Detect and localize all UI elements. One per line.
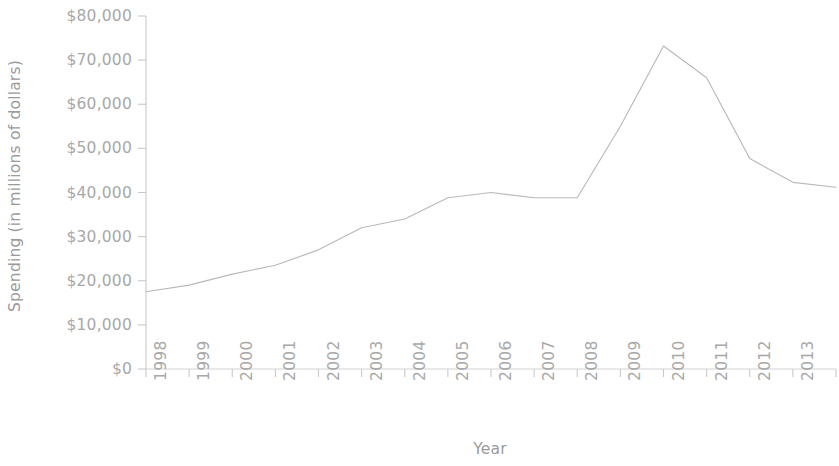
- plot-area: [0, 0, 839, 466]
- x-axis-tick-label: 2003: [368, 340, 386, 381]
- x-axis-tick-label: 1998: [152, 340, 170, 381]
- x-axis-tick-label: 2007: [540, 340, 558, 381]
- data-series-line: [146, 46, 836, 292]
- x-axis-tick-label: 1999: [195, 340, 213, 381]
- x-axis-tick-label: 2001: [281, 340, 299, 381]
- y-axis-tick-marks: [138, 16, 146, 369]
- x-axis-tick-label: 2013: [799, 340, 817, 381]
- x-axis-tick-label: 2000: [238, 340, 256, 381]
- x-axis-tick-label: 2005: [454, 340, 472, 381]
- x-axis-tick-label: 2012: [756, 340, 774, 381]
- x-axis-tick-label: 2009: [626, 340, 644, 381]
- x-axis-tick-label: 2002: [325, 340, 343, 381]
- x-axis-tick-label: 2004: [411, 340, 429, 381]
- x-axis-tick-label: 2008: [583, 340, 601, 381]
- x-axis-tick-label: 2011: [713, 340, 731, 381]
- x-axis-title: Year: [430, 440, 550, 458]
- x-axis-tick-label: 2006: [497, 340, 515, 381]
- line-chart: Spending (in millions of dollars) $0$10,…: [0, 0, 839, 466]
- x-axis-tick-label: 2010: [670, 340, 688, 381]
